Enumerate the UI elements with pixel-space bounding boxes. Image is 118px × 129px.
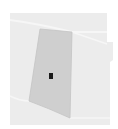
- location-marker-icon[interactable]: [49, 73, 53, 79]
- map-view[interactable]: [0, 0, 118, 129]
- map-canvas[interactable]: [0, 0, 118, 129]
